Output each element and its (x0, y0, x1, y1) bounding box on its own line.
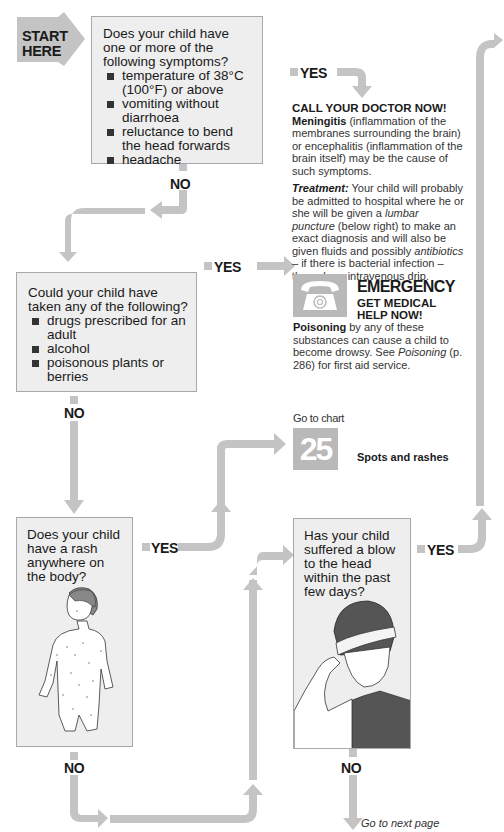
next-page-link[interactable]: Go to next page (361, 817, 439, 829)
poisoning-info: Poisoning by any of these substances can… (293, 321, 468, 371)
call-doctor-heading: CALL YOUR DOCTOR NOW! (292, 102, 464, 115)
question-text: Does your child have a rash anywhere on … (17, 518, 132, 584)
substance-list: drugs prescribed for an adult alcohol po… (28, 314, 188, 384)
start-here-label: START HERE (22, 29, 68, 59)
list-item: poisonous plants or berries (28, 356, 188, 384)
q1-yes-label: YES (300, 65, 327, 81)
list-item: headache (103, 153, 254, 167)
symptom-list: temperature of 38°C (100°F) or above vom… (103, 69, 254, 167)
q3-no-arrow (70, 775, 108, 828)
q2-no-arrow (64, 421, 84, 514)
q4-no-arrow (343, 775, 363, 830)
emergency-title: EMERGENCY (357, 278, 455, 296)
q1-yes-arrow (337, 68, 372, 98)
q2-yes-label: YES (214, 259, 241, 275)
meningitis-info: CALL YOUR DOCTOR NOW! Meningitis (inflam… (292, 102, 464, 282)
question-text: Could your child have taken any of the f… (28, 286, 188, 314)
meningitis-description: Meningitis (inflammation of the membrane… (292, 115, 464, 178)
q1-no-label: NO (170, 176, 190, 192)
bottom-connector-arrow (110, 784, 263, 823)
list-item: drugs prescribed for an adult (28, 314, 188, 342)
go-to-chart-label: Go to chart (293, 412, 344, 424)
q2-yes-arrow (257, 256, 295, 276)
question-box-symptoms: Does your child have one or more of the … (91, 16, 263, 164)
q3-yes-label: YES (151, 540, 178, 556)
question-text: Does your child have one or more of the … (103, 27, 254, 69)
q3-no-label: NO (64, 760, 84, 776)
question-box-head-injury: Has your child suffered a blow to the he… (293, 518, 411, 749)
list-item: vomiting without diarrhoea (103, 97, 254, 125)
q2-no-label: NO (64, 405, 84, 421)
question-box-substances: Could your child have taken any of the f… (16, 272, 197, 392)
question-box-rash: Does your child have a rash anywhere on … (16, 517, 133, 747)
list-item: alcohol (28, 342, 188, 356)
q4-yes-label: YES (427, 542, 454, 558)
chart-25-badge[interactable]: 25 (293, 428, 338, 470)
list-item: temperature of 38°C (100°F) or above (103, 69, 254, 97)
q1-no-arrow-head (150, 190, 187, 219)
q4-no-label: NO (341, 760, 361, 776)
child-with-rash-illustration (17, 585, 134, 745)
get-help-label: GET MEDICAL HELP NOW! (357, 297, 436, 321)
chart-title[interactable]: Spots and rashes (357, 451, 449, 463)
child-with-head-bandage-illustration (294, 591, 411, 749)
treatment-description: Treatment: Your child will probably be a… (292, 182, 464, 282)
question-text: Has your child suffered a blow to the he… (294, 519, 410, 599)
q4-yes-arrow (458, 508, 492, 553)
telephone-icon (293, 274, 347, 317)
list-item: reluctance to bend the head forwards (103, 125, 254, 153)
poisoning-link[interactable]: Poisoning (398, 346, 446, 358)
